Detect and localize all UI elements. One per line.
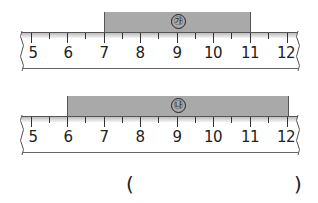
tick	[49, 33, 50, 39]
tick	[140, 117, 141, 127]
tick	[140, 33, 141, 43]
ruler-shade	[22, 117, 298, 122]
ruler-na: 5 6 7 8 9 10 11 12	[22, 116, 298, 153]
tick-label: 11	[241, 44, 259, 62]
tick	[104, 33, 105, 43]
tick-label: 5	[28, 44, 37, 62]
tick	[268, 33, 269, 39]
ruler-right-break-icon	[295, 115, 301, 155]
tick	[195, 33, 196, 39]
ruler-diagram: ㉮ 5 6 7 8 9 10 11 12 ㉯	[0, 0, 318, 203]
tick-label: 11	[241, 128, 259, 146]
tick	[31, 117, 32, 127]
tick	[67, 33, 68, 43]
tick	[85, 33, 86, 39]
tick-label: 7	[99, 128, 108, 146]
tick	[49, 117, 50, 123]
bar-na-label: ㉯	[171, 98, 186, 113]
tick-label: 6	[63, 44, 72, 62]
tick	[287, 117, 288, 127]
tick	[250, 117, 251, 127]
tick	[287, 33, 288, 43]
bar-ga-label: ㉮	[171, 14, 186, 29]
ruler-shade	[22, 33, 298, 38]
ruler-left-break-icon	[19, 115, 25, 155]
tick	[177, 33, 178, 43]
tick	[231, 117, 232, 123]
tick	[213, 117, 214, 127]
tick	[31, 33, 32, 43]
tick	[158, 117, 159, 123]
ruler-left-break-icon	[19, 31, 25, 71]
tick	[195, 117, 196, 123]
tick	[268, 117, 269, 123]
ruler-ga: 5 6 7 8 9 10 11 12	[22, 32, 298, 69]
tick-label: 5	[28, 128, 37, 146]
tick	[177, 117, 178, 127]
tick	[67, 117, 68, 127]
tick-label: 8	[135, 44, 144, 62]
tick-label: 7	[99, 44, 108, 62]
answer-open-paren: (	[126, 172, 134, 196]
tick	[104, 117, 105, 127]
tick-label: 8	[135, 128, 144, 146]
tick	[122, 117, 123, 123]
answer-close-paren: )	[294, 172, 302, 196]
tick-label: 9	[172, 128, 181, 146]
tick-label: 6	[63, 128, 72, 146]
tick-label: 10	[204, 44, 222, 62]
tick	[213, 33, 214, 43]
bar-ga: ㉮	[104, 12, 251, 33]
tick	[85, 117, 86, 123]
bar-na: ㉯	[67, 96, 289, 117]
tick-label: 12	[277, 44, 295, 62]
tick-label: 9	[172, 44, 181, 62]
tick	[122, 33, 123, 39]
tick-label: 10	[204, 128, 222, 146]
tick-label: 12	[277, 128, 295, 146]
tick	[231, 33, 232, 39]
tick	[250, 33, 251, 43]
tick	[158, 33, 159, 39]
ruler-right-break-icon	[295, 31, 301, 71]
